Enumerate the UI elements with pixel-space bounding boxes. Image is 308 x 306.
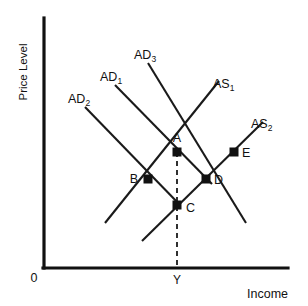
ad-as-diagram-figure: AD2 AD1 AD3 AS1 AS2 A B C D E 0 Y Income… <box>0 0 308 306</box>
curve-label-ad1: AD1 <box>100 70 122 86</box>
point-marker-a <box>173 148 182 157</box>
curve-label-as2: AS2 <box>251 117 273 133</box>
y-axis-label: Price Level <box>17 44 29 101</box>
point-marker-b <box>144 175 153 184</box>
point-label-e: E <box>242 146 250 160</box>
curve-label-ad2: AD2 <box>68 92 90 108</box>
point-label-a: A <box>173 131 182 145</box>
point-marker-c <box>173 201 182 210</box>
point-label-b: B <box>130 172 138 186</box>
x-axis-label: Income <box>247 287 288 301</box>
point-marker-e <box>230 148 239 157</box>
point-label-c: C <box>186 201 195 215</box>
x-tick-label-y: Y <box>173 273 181 287</box>
origin-label: 0 <box>31 271 38 285</box>
curve-label-ad3: AD3 <box>134 48 156 64</box>
point-label-d: D <box>214 173 223 187</box>
curve-ad1 <box>115 85 212 184</box>
chart-canvas: AD2 AD1 AD3 AS1 AS2 A B C D E 0 Y Income… <box>0 0 308 306</box>
curve-label-as1: AS1 <box>213 77 235 93</box>
point-marker-d <box>202 175 211 184</box>
